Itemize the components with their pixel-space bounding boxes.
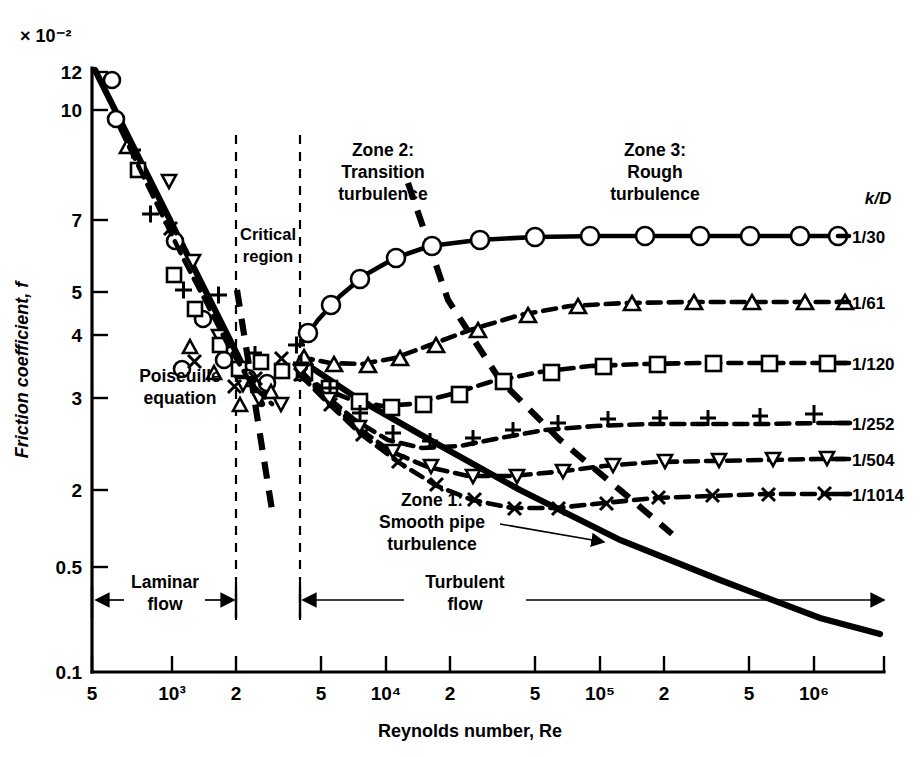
x-tick-label-1e3: 10³ xyxy=(158,683,185,704)
chart-svg: 12 10 7 5 4 3 2 0.5 0.1 5 10³ xyxy=(0,0,921,757)
x-tick-label-2e5: 2 xyxy=(659,683,670,704)
zone3-label-line1: Zone 3: xyxy=(624,140,686,160)
annotation-zone-3: Zone 3: Rough turbulence xyxy=(610,140,700,204)
y-tick-label-12: 12 xyxy=(61,62,82,83)
laminar-flow-label-line1: Laminar xyxy=(131,572,199,592)
annotation-poiseuille: Poiseuille equation xyxy=(139,366,221,408)
x-tick-label-5e3: 5 xyxy=(316,683,327,704)
y-axis-tick-labels: 12 10 7 5 4 3 2 0.5 0.1 xyxy=(56,62,83,683)
kd-legend-label-1-30: 1/30 xyxy=(852,228,885,247)
zone2-label-line2: Transition xyxy=(341,162,425,182)
x-tick-label-1e4: 10⁴ xyxy=(371,683,402,704)
zone2-label-line1: Zone 2: xyxy=(352,140,414,160)
x-tick-label-2e4: 2 xyxy=(445,683,456,704)
y-axis-ticks xyxy=(92,72,108,567)
friction-chart-figure: 12 10 7 5 4 3 2 0.5 0.1 5 10³ xyxy=(0,0,921,757)
zone3-label-line2: Rough xyxy=(627,162,682,182)
x-tick-label-500: 5 xyxy=(87,683,98,704)
kd-legend-label-1-61: 1/61 xyxy=(852,294,885,313)
annotation-critical-region: Critical region xyxy=(240,225,296,265)
zone3-label-line3: turbulence xyxy=(610,184,700,204)
y-tick-label-0-1: 0.1 xyxy=(56,662,83,683)
critical-region-label-line2: region xyxy=(243,247,293,265)
y-tick-label-7: 7 xyxy=(71,210,82,231)
zone1-label-line1: Zone 1: xyxy=(401,490,463,510)
annotation-zone-1: Zone 1: Smooth pipe turbulence xyxy=(379,490,604,554)
y-tick-label-4: 4 xyxy=(71,325,82,346)
zone2-label-line3: turbulence xyxy=(338,184,428,204)
kd-legend-label-1-1014: 1/1014 xyxy=(852,486,905,505)
y-tick-label-10: 10 xyxy=(61,100,82,121)
series-1-120 xyxy=(297,356,848,415)
y-tick-label-2: 2 xyxy=(71,480,82,501)
laminar-flow-label-line2: flow xyxy=(148,594,183,614)
annotation-zone-2: Zone 2: Transition turbulence xyxy=(338,140,428,204)
x-axis-ticks xyxy=(92,656,884,672)
y-tick-label-3: 3 xyxy=(71,388,82,409)
x-axis-tick-labels: 5 10³ 2 5 10⁴ 2 5 10⁵ 2 5 10⁶ xyxy=(87,683,829,704)
y-axis-title: Friction coefficient, f xyxy=(12,280,32,459)
series-1-30 xyxy=(299,227,847,345)
kd-legend-label-1-120: 1/120 xyxy=(852,355,895,374)
poiseuille-label-line2: equation xyxy=(144,388,217,408)
x-axis-title: Reynolds number, Re xyxy=(378,721,562,741)
kd-legend: k/D 1/30 1/61 1/120 1/252 1/504 1/1014 xyxy=(834,189,905,505)
x-tick-label-2e3: 2 xyxy=(231,683,242,704)
kd-legend-header: k/D xyxy=(865,189,891,208)
y-tick-label-0-5: 0.5 xyxy=(56,557,83,578)
zone1-label-line3: turbulence xyxy=(387,534,477,554)
zone1-label-line2: Smooth pipe xyxy=(379,512,485,532)
turbulent-flow-label-line2: flow xyxy=(448,594,483,614)
kd-legend-label-1-252: 1/252 xyxy=(852,415,895,434)
critical-region-label-line1: Critical xyxy=(240,225,296,243)
x-tick-label-1e6: 10⁶ xyxy=(799,683,829,704)
x-tick-label-5e4: 5 xyxy=(530,683,541,704)
x-tick-label-1e5: 10⁵ xyxy=(585,683,615,704)
y-tick-label-5: 5 xyxy=(71,282,82,303)
laminar-flow-span: Laminar flow xyxy=(92,572,236,618)
poiseuille-label-line1: Poiseuille xyxy=(139,366,221,386)
turbulent-flow-label-line1: Turbulent xyxy=(425,572,505,592)
kd-legend-label-1-504: 1/504 xyxy=(852,451,895,470)
y-axis-multiplier: × 10⁻² xyxy=(20,26,72,46)
x-tick-label-5e5: 5 xyxy=(744,683,755,704)
